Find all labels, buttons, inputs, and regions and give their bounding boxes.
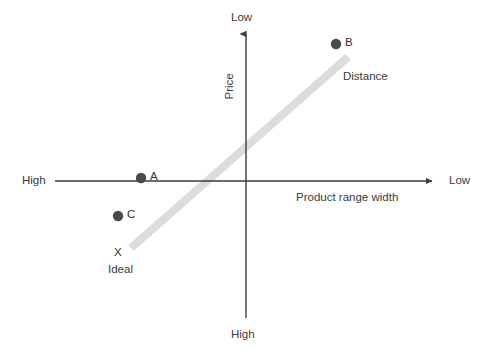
distance-annotation-label: Distance [343,71,388,83]
data-point-a-dot[interactable] [136,173,146,183]
x-axis-right-label: Low [449,175,470,187]
x-axis-left-label: High [22,175,46,187]
y-axis-bottom-label: High [231,329,255,341]
data-point-b-dot[interactable] [331,39,341,49]
distance-reference-line [131,57,348,248]
y-axis-title: Price [224,73,236,99]
diagram-canvas: Low High Price High Low Product range wi… [0,0,490,350]
data-point-b-label: B [345,37,353,49]
data-point-a-label: A [150,171,158,183]
ideal-marker-caption: Ideal [108,264,133,276]
positioning-map-svg [0,0,490,350]
y-axis-top-label: Low [231,12,252,24]
ideal-marker-x: X [114,247,122,259]
data-point-c-label: C [127,209,135,221]
data-point-c-dot[interactable] [113,211,123,221]
x-axis-title: Product range width [296,192,398,204]
